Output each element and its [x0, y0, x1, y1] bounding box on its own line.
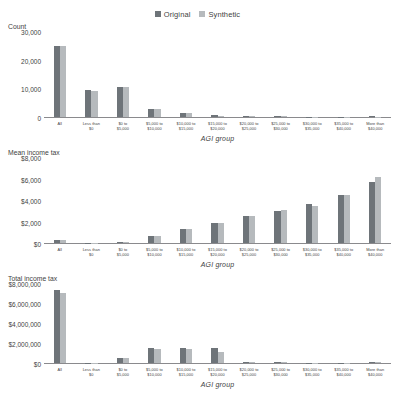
bar-group [44, 284, 76, 363]
chart-count-plot [44, 32, 391, 118]
x-axis-label: $10,000 to $15,000 [170, 121, 202, 131]
y-tick: $4,000 [21, 198, 41, 205]
chart-mean-y-axis: $8,000 $6,000 $4,000 $2,000 $0 [0, 158, 44, 244]
y-tick: 10,000 [21, 86, 41, 93]
legend-label-synthetic: Synthetic [208, 10, 240, 19]
chart-total-x-labels: AllLess than $0$0 to $5,000$5,000 to $10… [44, 367, 391, 377]
x-axis-label: $30,000 to $35,000 [296, 121, 328, 131]
bar-group [44, 158, 76, 243]
bar-synthetic [154, 109, 160, 118]
chart-mean-bars [44, 158, 391, 243]
bar-group [296, 284, 328, 363]
bar-synthetic [249, 116, 255, 117]
bar-group [170, 284, 202, 363]
bar-group [265, 284, 297, 363]
y-tick: $8,000 [21, 155, 41, 162]
x-axis-label: $35,000 to $40,000 [328, 121, 360, 131]
x-axis-label: $30,000 to $35,000 [296, 367, 328, 377]
x-axis-label: $35,000 to $40,000 [328, 247, 360, 257]
bar-group [202, 158, 234, 243]
x-axis-label: $20,000 to $25,000 [233, 121, 265, 131]
bar-synthetic [60, 46, 66, 117]
bar-group [107, 284, 139, 363]
bar-synthetic [91, 91, 97, 117]
y-tick: $2,000 [21, 219, 41, 226]
bar-group [44, 32, 76, 117]
chart-total-x-title: AGI group [44, 381, 391, 388]
x-axis-label: $35,000 to $40,000 [328, 367, 360, 377]
bar-group [107, 158, 139, 243]
bar-group [107, 32, 139, 117]
bar-synthetic [123, 358, 129, 363]
chart-legend: Original Synthetic [0, 0, 395, 21]
bar-group [76, 284, 108, 363]
bar-synthetic [218, 223, 224, 243]
x-axis-label: More than $40,000 [359, 367, 391, 377]
bar-synthetic [375, 177, 381, 243]
x-axis-label: $0 to $5,000 [107, 367, 139, 377]
bar-group [233, 32, 265, 117]
y-tick: $6,000 [21, 176, 41, 183]
x-axis-label: $30,000 to $35,000 [296, 247, 328, 257]
legend-label-original: Original [164, 10, 191, 19]
chart-count: Count 30,000 20,000 10,000 0 AllLess tha… [0, 23, 395, 149]
bar-synthetic [154, 236, 160, 243]
chart-mean-x-labels: AllLess than $0$0 to $5,000$5,000 to $10… [44, 247, 391, 257]
y-tick: $6,000,000 [8, 301, 41, 308]
x-axis-label: $0 to $5,000 [107, 121, 139, 131]
bar-group [233, 158, 265, 243]
x-axis-label: $5,000 to $10,000 [139, 247, 171, 257]
bar-synthetic [281, 210, 287, 243]
bar-synthetic [312, 206, 318, 243]
x-axis-label: More than $40,000 [359, 121, 391, 131]
bar-group [328, 284, 360, 363]
bar-group [76, 158, 108, 243]
x-axis-label: $25,000 to $30,000 [265, 121, 297, 131]
y-tick: $0 [34, 241, 41, 248]
bar-group [139, 284, 171, 363]
x-axis-label: $25,000 to $30,000 [265, 247, 297, 257]
legend-item-synthetic: Synthetic [199, 10, 240, 19]
chart-mean-income-tax: Mean income tax $8,000 $6,000 $4,000 $2,… [0, 149, 395, 275]
x-axis-label: $25,000 to $30,000 [265, 367, 297, 377]
x-axis-label: More than $40,000 [359, 247, 391, 257]
bar-synthetic [218, 116, 224, 117]
chart-count-x-title: AGI group [44, 135, 391, 142]
bar-synthetic [249, 362, 255, 363]
square-swatch-icon [199, 11, 205, 17]
bar-group [359, 284, 391, 363]
bar-synthetic [375, 362, 381, 363]
legend-item-original: Original [155, 10, 191, 19]
x-axis-label: $15,000 to $20,000 [202, 247, 234, 257]
y-tick: $2,000,000 [8, 341, 41, 348]
chart-mean-x-title: AGI group [44, 261, 391, 268]
chart-total-plot [44, 284, 391, 364]
x-axis-label: All [44, 247, 76, 257]
bar-group [139, 158, 171, 243]
y-tick: $8,000,000 [8, 281, 41, 288]
bar-synthetic [344, 195, 350, 243]
chart-count-y-axis: 30,000 20,000 10,000 0 [0, 32, 44, 118]
bar-group [170, 158, 202, 243]
chart-mean-plot [44, 158, 391, 244]
bar-synthetic [281, 362, 287, 363]
bar-group [139, 32, 171, 117]
bar-group [328, 32, 360, 117]
bar-group [202, 32, 234, 117]
chart-count-bars [44, 32, 391, 117]
bar-synthetic [186, 349, 192, 363]
x-axis-label: $20,000 to $25,000 [233, 247, 265, 257]
bar-group [76, 32, 108, 117]
chart-count-x-labels: AllLess than $0$0 to $5,000$5,000 to $10… [44, 121, 391, 131]
x-axis-label: All [44, 121, 76, 131]
bar-synthetic [60, 240, 66, 243]
x-axis-label: All [44, 367, 76, 377]
bar-synthetic [281, 116, 287, 117]
bar-synthetic [123, 242, 129, 243]
x-axis-label: $20,000 to $25,000 [233, 367, 265, 377]
chart-total-bars [44, 284, 391, 363]
y-tick: 0 [37, 115, 41, 122]
x-axis-label: $15,000 to $20,000 [202, 367, 234, 377]
x-axis-label: $10,000 to $15,000 [170, 367, 202, 377]
square-swatch-icon [155, 11, 161, 17]
